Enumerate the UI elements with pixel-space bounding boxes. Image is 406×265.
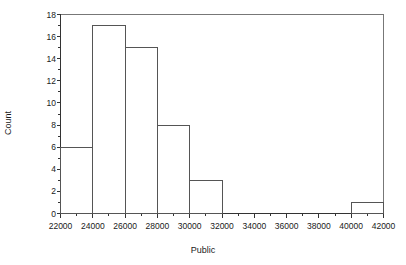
x-tick-label: 36000 xyxy=(275,221,299,231)
x-tick-label: 40000 xyxy=(339,221,363,231)
y-tick-label: 4 xyxy=(14,164,56,174)
x-tick-label: 28000 xyxy=(146,221,170,231)
y-tick-label: 14 xyxy=(14,54,56,64)
histogram-figure: Count Public 024681012141618220002400026… xyxy=(0,0,406,265)
x-tick-label: 22000 xyxy=(49,221,73,231)
x-tick-label: 30000 xyxy=(178,221,202,231)
x-tick-label: 24000 xyxy=(81,221,105,231)
y-tick-label: 18 xyxy=(14,10,56,20)
x-tick-label: 38000 xyxy=(307,221,331,231)
bar-series xyxy=(61,26,384,214)
histogram-bar xyxy=(61,147,93,213)
y-tick-label: 2 xyxy=(14,186,56,196)
histogram-bar xyxy=(125,48,157,214)
y-tick-label: 8 xyxy=(14,120,56,130)
x-tick-label: 42000 xyxy=(372,221,396,231)
y-tick-label: 10 xyxy=(14,98,56,108)
histogram-bar xyxy=(190,180,222,213)
y-tick-label: 12 xyxy=(14,76,56,86)
x-axis-label: Public xyxy=(0,245,406,255)
histogram-bar xyxy=(157,125,189,213)
y-tick-label: 16 xyxy=(14,32,56,42)
y-tick-label: 0 xyxy=(14,209,56,219)
histogram-bar xyxy=(93,26,125,214)
x-tick-label: 32000 xyxy=(210,221,234,231)
x-tick-label: 34000 xyxy=(242,221,266,231)
x-tick-label: 26000 xyxy=(113,221,137,231)
y-tick-label: 6 xyxy=(14,142,56,152)
histogram-bar xyxy=(351,202,383,213)
y-axis-label: Count xyxy=(3,103,13,143)
